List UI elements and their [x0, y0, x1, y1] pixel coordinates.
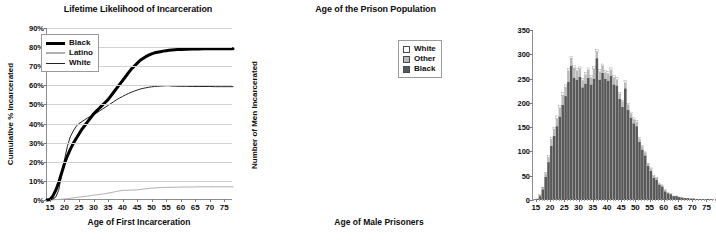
- x-tick-label: 50: [631, 203, 640, 212]
- x-tick-label: 70: [688, 203, 697, 212]
- histogram-bar-white: [556, 116, 559, 118]
- histogram-bar-black: [650, 171, 653, 200]
- histogram-bar-white: [559, 105, 562, 107]
- x-minor-tick-mark: [704, 199, 705, 201]
- histogram-bar-white: [593, 66, 596, 68]
- x-tick-label: 55: [645, 203, 654, 212]
- chart-panel-age-of-prison-population: Age of the Prison Population Number of M…: [244, 0, 487, 243]
- x-minor-tick-mark: [610, 199, 611, 201]
- histogram-bar-black: [567, 81, 570, 200]
- histogram-bar-black: [581, 87, 584, 200]
- histogram-bar-other: [547, 157, 550, 162]
- histogram-bar-white: [590, 76, 593, 78]
- y-tick-label: 300: [517, 50, 530, 59]
- legend-swatch-white: [46, 63, 65, 64]
- x-minor-tick-mark: [689, 199, 690, 201]
- histogram-bar-black: [624, 88, 627, 200]
- legend-item[interactable]: Black: [46, 38, 93, 48]
- histogram-bar-black: [564, 96, 567, 200]
- histogram-bar-black: [658, 184, 661, 200]
- histogram-bar-other: [652, 176, 655, 177]
- histogram-bar-other: [655, 178, 658, 179]
- x-minor-tick-mark: [587, 199, 588, 201]
- histogram-bar-other: [633, 119, 636, 123]
- x-minor-tick-mark: [630, 199, 631, 201]
- y-tick-mark: [530, 54, 533, 55]
- histogram-bar-other: [553, 129, 556, 136]
- x-minor-tick-mark: [553, 199, 554, 201]
- x-tick-mark: [64, 199, 65, 202]
- histogram-bar-other: [644, 153, 647, 155]
- histogram-bar-white: [587, 68, 590, 70]
- histogram-bar-black: [584, 83, 587, 200]
- legend-left[interactable]: BlackLatinoWhite: [41, 34, 99, 72]
- x-tick-label: 20: [546, 203, 555, 212]
- histogram-bar-white: [627, 103, 630, 104]
- histogram-bar-other: [542, 188, 545, 189]
- histogram-bar-white: [604, 71, 607, 73]
- legend-item[interactable]: White: [46, 58, 93, 68]
- legend-item[interactable]: Latino: [46, 48, 93, 58]
- x-tick-mark: [664, 199, 665, 202]
- histogram-bar-black: [596, 58, 599, 200]
- histogram-bar-white: [570, 56, 573, 58]
- y-tick-mark: [44, 104, 47, 105]
- x-minor-tick-mark: [658, 199, 659, 201]
- y-tick-mark: [530, 30, 533, 31]
- x-minor-tick-mark: [596, 199, 597, 201]
- legend-swatch-white: [403, 46, 410, 53]
- x-tick-label: 35: [588, 203, 597, 212]
- y-tick-mark: [44, 162, 47, 163]
- x-minor-tick-mark: [561, 199, 562, 201]
- histogram-bar-white: [641, 146, 644, 147]
- histogram-bar-white: [647, 163, 650, 164]
- x-tick-mark: [152, 199, 153, 202]
- x-tick-label: 60: [659, 203, 668, 212]
- histogram-bar-black: [635, 126, 638, 200]
- histogram-bar-black: [607, 81, 610, 200]
- y-tick-label: 0%: [33, 196, 44, 205]
- histogram-bar-black: [553, 136, 556, 200]
- histogram-bar-black: [615, 85, 618, 200]
- x-tick-mark: [137, 199, 138, 202]
- histogram-bar-white: [584, 73, 587, 75]
- histogram-bar-other: [581, 81, 584, 88]
- histogram-bar-black: [598, 80, 601, 200]
- x-tick-label: 50: [147, 203, 156, 212]
- histogram-bar-black: [544, 177, 547, 200]
- x-tick-mark: [210, 199, 211, 202]
- x-minor-tick-mark: [547, 199, 548, 201]
- histogram-bar-other: [567, 71, 570, 82]
- y-tick-label: 350: [517, 26, 530, 35]
- histogram-bar-black: [627, 110, 630, 200]
- x-minor-tick-mark: [709, 199, 710, 201]
- y-tick-mark: [44, 143, 47, 144]
- y-tick-label: 50%: [29, 100, 44, 109]
- x-axis-title-right: Age of Male Prisoners: [288, 217, 470, 227]
- histogram-bar-white: [644, 152, 647, 153]
- histogram-bar-other: [587, 70, 590, 78]
- legend-item[interactable]: Other: [403, 54, 436, 64]
- histogram-bar-black: [630, 117, 633, 200]
- x-minor-tick-mark: [684, 199, 685, 201]
- x-minor-tick-mark: [573, 199, 574, 201]
- histogram-bar-white: [581, 79, 584, 81]
- histogram-bar-black: [644, 155, 647, 200]
- gridline: [47, 181, 232, 182]
- legend-item[interactable]: Black: [403, 64, 436, 74]
- x-tick-mark: [621, 199, 622, 202]
- histogram-bar-other: [610, 70, 613, 76]
- x-minor-tick-mark: [590, 199, 591, 201]
- histogram-bar-black: [559, 116, 562, 200]
- legend-label: Other: [414, 54, 435, 64]
- histogram-bar-white: [550, 137, 553, 139]
- histogram-bar-black: [550, 146, 553, 200]
- x-tick-label: 40: [118, 203, 127, 212]
- histogram-bar-black: [561, 105, 564, 200]
- legend-right[interactable]: WhiteOtherBlack: [398, 40, 442, 78]
- y-tick-label: 50: [522, 171, 530, 180]
- gridline: [47, 104, 232, 105]
- histogram-bar-black: [576, 80, 579, 200]
- legend-item[interactable]: White: [403, 44, 436, 54]
- legend-swatch-latino: [46, 52, 65, 55]
